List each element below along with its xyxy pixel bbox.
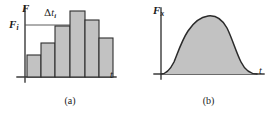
caption-b: (b) — [140, 95, 277, 106]
fi-value-label: Fi — [9, 19, 19, 30]
histogram-bar — [85, 20, 99, 77]
histogram-bar — [70, 11, 85, 77]
caption-a: (a) — [0, 95, 140, 106]
delta-t-label: Δti — [44, 8, 56, 18]
panel-b-smooth-curve: Fx t (b) — [140, 0, 277, 114]
delta-t-subscript: i — [54, 12, 56, 19]
fi-subscript: i — [17, 23, 19, 32]
panel-a-histogram: F Fi Δti t (a) — [0, 0, 140, 114]
histogram-bar — [27, 55, 41, 77]
fx-base: F — [153, 4, 160, 16]
impulse-figure: F Fi Δti t (a) Fx t (b) — [0, 0, 277, 114]
x-axis-label-b: t — [259, 66, 262, 76]
fi-base: F — [9, 18, 16, 30]
histogram-bar — [41, 43, 55, 77]
y-axis-label-a: F — [22, 3, 29, 14]
x-axis-label-a: t — [110, 70, 113, 80]
histogram-bar — [55, 26, 70, 77]
y-axis-label-b: Fx — [153, 5, 164, 16]
fx-subscript: x — [161, 9, 165, 18]
